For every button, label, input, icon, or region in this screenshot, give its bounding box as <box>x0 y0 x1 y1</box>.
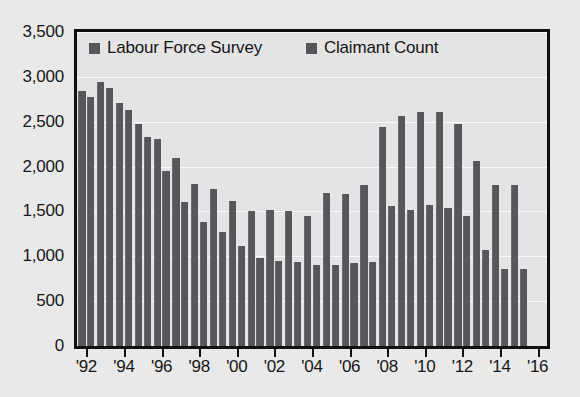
bar <box>350 263 357 346</box>
x-axis-tick-label: '14 <box>489 357 510 377</box>
x-axis-tick-label: '06 <box>339 357 360 377</box>
bar <box>417 112 424 346</box>
plot-inner <box>77 32 547 346</box>
bar <box>191 184 198 346</box>
bar <box>332 265 339 346</box>
bar-series-group <box>77 32 547 346</box>
x-axis-tick <box>350 349 352 357</box>
bar <box>162 171 169 346</box>
bar <box>511 185 518 346</box>
legend-label: Claimant Count <box>324 38 438 58</box>
legend-entry: Claimant Count <box>306 38 438 58</box>
bar <box>181 202 188 346</box>
y-axis: 05001,0001,5002,0002,5003,0003,500 <box>0 29 68 349</box>
x-axis-tick <box>425 349 427 357</box>
bar <box>360 185 367 346</box>
bar <box>266 210 273 346</box>
legend-entry: Labour Force Survey <box>89 38 262 58</box>
bar <box>398 116 405 346</box>
bar <box>78 91 85 346</box>
x-axis-tick <box>124 349 126 357</box>
x-axis-tick <box>387 349 389 357</box>
bar <box>210 189 217 346</box>
x-axis-tick-label: '08 <box>377 357 398 377</box>
x-axis-tick-label: '94 <box>113 357 134 377</box>
x-axis-tick-label: '96 <box>151 357 172 377</box>
y-axis-tick-label: 1,500 <box>22 201 64 221</box>
x-axis-tick-label: '16 <box>527 357 548 377</box>
bar <box>144 137 151 346</box>
chart-legend: Labour Force SurveyClaimant Count <box>89 38 482 58</box>
bar <box>294 262 301 346</box>
bar <box>454 124 461 346</box>
bar <box>256 258 263 346</box>
x-axis-tick <box>86 349 88 357</box>
bar <box>97 82 104 346</box>
y-axis-tick-label: 0 <box>55 336 64 356</box>
bar <box>313 265 320 346</box>
y-axis-tick-label: 2,000 <box>22 157 64 177</box>
x-axis-tick <box>199 349 201 357</box>
bar <box>501 269 508 346</box>
x-axis-tick-label: '10 <box>414 357 435 377</box>
bar <box>87 97 94 346</box>
bar <box>238 246 245 346</box>
bar <box>342 194 349 347</box>
x-axis-tick-label: '02 <box>264 357 285 377</box>
x-axis-tick <box>312 349 314 357</box>
bar <box>407 210 414 346</box>
bar <box>426 205 433 346</box>
y-axis-tick-label: 1,000 <box>22 246 64 266</box>
x-axis-tick <box>237 349 239 357</box>
bar <box>172 158 179 346</box>
legend-square-marker-icon <box>89 43 100 54</box>
x-axis-labels: '92'94'96'98'00'02'04'06'08'10'12'14'16 <box>0 357 580 383</box>
bar <box>135 124 142 346</box>
legend-label: Labour Force Survey <box>107 38 262 58</box>
x-axis-tick-label: '00 <box>226 357 247 377</box>
x-axis-tick-label: '12 <box>452 357 473 377</box>
bar <box>285 211 292 346</box>
bar <box>200 222 207 346</box>
y-axis-tick-label: 3,000 <box>22 67 64 87</box>
bar <box>388 206 395 346</box>
bar <box>444 208 451 346</box>
x-axis-tick <box>162 349 164 357</box>
bar <box>436 112 443 346</box>
bar <box>125 110 132 346</box>
x-axis-tick <box>500 349 502 357</box>
bar <box>154 139 161 346</box>
bar <box>248 211 255 346</box>
bar <box>482 250 489 346</box>
x-axis-tick <box>538 349 540 357</box>
plot-area: Labour Force SurveyClaimant Count <box>74 29 550 349</box>
legend-square-marker-icon <box>306 43 317 54</box>
chart-screenshot: 05001,0001,5002,0002,5003,0003,500 Labou… <box>0 0 580 397</box>
bar <box>219 232 226 346</box>
x-axis-tick-label: '98 <box>189 357 210 377</box>
bar <box>229 201 236 346</box>
y-axis-tick-label: 3,500 <box>22 22 64 42</box>
bar <box>275 261 282 346</box>
bar <box>473 161 480 346</box>
bar <box>116 103 123 346</box>
bar <box>379 127 386 346</box>
x-axis-tick <box>274 349 276 357</box>
x-axis-tick <box>462 349 464 357</box>
bar <box>369 262 376 346</box>
x-axis-tick-label: '04 <box>301 357 322 377</box>
bar <box>463 216 470 346</box>
bar <box>323 193 330 346</box>
bar <box>520 269 527 346</box>
y-axis-tick-label: 500 <box>36 291 64 311</box>
y-axis-tick-label: 2,500 <box>22 112 64 132</box>
bar <box>492 185 499 346</box>
bar <box>106 88 113 346</box>
bar <box>304 216 311 346</box>
x-axis-tick-label: '92 <box>76 357 97 377</box>
